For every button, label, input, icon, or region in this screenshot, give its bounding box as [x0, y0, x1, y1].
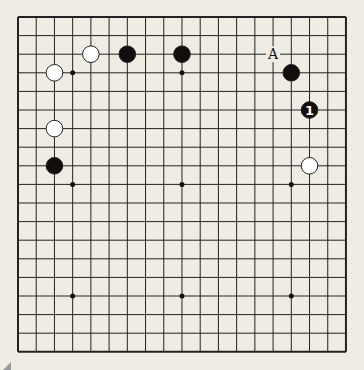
hoshi-point: [70, 70, 75, 75]
white-stone: [301, 158, 318, 175]
hoshi-point: [70, 294, 75, 299]
white-stone: [83, 46, 100, 63]
hoshi-point: [289, 294, 294, 299]
white-stone: [46, 65, 63, 82]
black-stone: [46, 158, 63, 175]
black-stone: [119, 46, 136, 63]
hoshi-point: [179, 182, 184, 187]
corner-triangle-icon: [3, 362, 11, 370]
hoshi-point: [289, 182, 294, 187]
hoshi-point: [70, 182, 75, 187]
hoshi-point: [179, 294, 184, 299]
black-stone: [174, 46, 191, 63]
go-board: A1: [0, 0, 364, 370]
white-stone: [46, 120, 63, 137]
hoshi-point: [179, 70, 184, 75]
black-stone: [283, 65, 300, 82]
marker-label: A: [267, 46, 279, 62]
stone-move-number: 1: [305, 103, 314, 118]
